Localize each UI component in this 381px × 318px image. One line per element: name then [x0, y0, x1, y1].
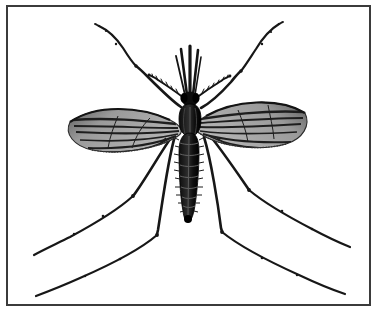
left-compound-eye [180, 93, 187, 103]
illustration-plate [0, 0, 381, 318]
thorax [179, 104, 201, 136]
right-compound-eye [192, 93, 199, 103]
abdomen-tip [184, 215, 192, 223]
mosquito-illustration [0, 0, 381, 318]
